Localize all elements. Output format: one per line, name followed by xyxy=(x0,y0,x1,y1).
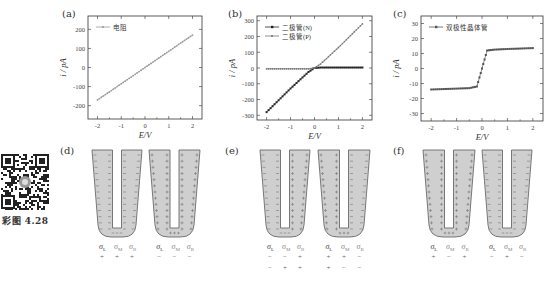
y-tick-label: -20 xyxy=(409,95,418,102)
x-tick-label: -1 xyxy=(454,124,459,131)
charge-sign: + xyxy=(130,253,134,261)
nanochannel-diagram-f-2: σLσMσR−+− xyxy=(482,150,532,261)
charts-layer: 2001000-100-200-2-1012E/Vi / pA电阻3002001… xyxy=(0,0,556,286)
y-tick-label: 100 xyxy=(75,45,85,52)
y-tick-label: 20 xyxy=(412,35,419,42)
legend-label: 二极管(N) xyxy=(282,23,312,32)
x-tick-label: 0 xyxy=(313,123,316,130)
legend-item: 电阻 xyxy=(96,23,127,32)
x-tick-label: 1 xyxy=(167,122,170,129)
nanochannel-diagram-d-2: σLσMσR−−− xyxy=(149,150,200,261)
charge-sign: + xyxy=(100,253,104,261)
y-axis-label: i / pA xyxy=(391,58,401,77)
sigma-label: σR xyxy=(462,242,470,252)
chart-b: 3002001000-100-200-300-2-1012E/Vi / pA二极… xyxy=(227,16,372,141)
series-0 xyxy=(430,47,534,90)
charge-sign: − xyxy=(342,264,346,272)
legend-item: 二极管(P) xyxy=(265,32,311,41)
y-tick-label: -100 xyxy=(73,83,85,90)
sigma-label: σL xyxy=(489,242,496,252)
y-tick-label: -200 xyxy=(242,96,254,103)
sigma-label: σM xyxy=(172,242,181,252)
x-tick-label: 2 xyxy=(191,122,194,129)
y-axis-label: i / pA xyxy=(58,57,68,76)
sigma-label: σM xyxy=(341,242,350,252)
x-axis-label: E/V xyxy=(138,130,154,140)
charge-sign: − xyxy=(358,253,362,261)
sigma-label: σL xyxy=(267,242,274,252)
x-tick-label: 2 xyxy=(531,124,534,131)
charge-sign: − xyxy=(490,253,494,261)
x-tick-label: -2 xyxy=(428,124,433,131)
y-axis-label: i / pA xyxy=(227,58,237,77)
legend-item: 双极性晶体管 xyxy=(429,23,488,32)
charge-sign: + xyxy=(326,264,330,272)
chart-c: 3020100-10-20-30-2-1012E/Vi / pA双极性晶体管 xyxy=(391,16,543,142)
x-tick-label: 1 xyxy=(506,124,509,131)
nanochannel-diagram-f-1: σLσMσR+−+ xyxy=(423,150,475,261)
y-tick-label: -300 xyxy=(242,112,254,119)
x-tick-label: -2 xyxy=(264,123,269,130)
sigma-label: σR xyxy=(187,242,195,252)
charge-sign: + xyxy=(115,253,119,261)
sigma-label: σL xyxy=(430,242,437,252)
charge-sign: − xyxy=(268,253,272,261)
charge-sign: + xyxy=(298,253,302,261)
figure: (a) (b) (c) (d) (e) (f) 2001000-100-200-… xyxy=(0,0,556,286)
series-1 xyxy=(266,23,364,70)
qr-code-image xyxy=(1,153,49,210)
x-tick-label: -1 xyxy=(288,123,293,130)
charge-sign: − xyxy=(358,264,362,272)
nanochannel-diagram-d-1: σLσMσR+++ xyxy=(92,150,142,261)
y-tick-label: 30 xyxy=(412,20,419,27)
figure-caption: 彩图 4.28 xyxy=(2,214,49,227)
sigma-label: σM xyxy=(114,242,123,252)
sigma-label: σR xyxy=(357,242,365,252)
sigma-label: σL xyxy=(99,242,106,252)
charge-sign: + xyxy=(342,253,346,261)
sigma-label: σR xyxy=(297,242,305,252)
y-tick-label: 0 xyxy=(251,65,254,72)
y-tick-label: -100 xyxy=(242,80,254,87)
sigma-label: σL xyxy=(325,242,332,252)
charge-sign: + xyxy=(298,264,302,272)
x-tick-label: 1 xyxy=(337,123,340,130)
charge-sign: − xyxy=(188,253,192,261)
legend-label: 电阻 xyxy=(113,23,127,32)
x-axis-label: E/V xyxy=(307,131,323,141)
y-tick-label: 300 xyxy=(244,17,254,24)
charge-sign: + xyxy=(431,253,435,261)
sigma-label: σM xyxy=(282,242,291,252)
sigma-label: σR xyxy=(519,242,527,252)
y-tick-label: 0 xyxy=(415,65,418,72)
y-tick-label: 200 xyxy=(75,26,85,33)
charge-sign: − xyxy=(283,253,287,261)
x-tick-label: 2 xyxy=(361,123,364,130)
charge-sign: + xyxy=(283,264,287,272)
sigma-label: σM xyxy=(446,242,455,252)
charge-sign: − xyxy=(520,253,524,261)
charge-sign: + xyxy=(505,253,509,261)
charge-sign: − xyxy=(447,253,451,261)
charge-sign: − xyxy=(157,253,161,261)
chart-a: 2001000-100-200-2-1012E/Vi / pA电阻 xyxy=(58,16,202,140)
charge-sign: + xyxy=(463,253,467,261)
y-tick-label: -30 xyxy=(409,110,418,117)
series-0 xyxy=(266,67,364,114)
legend-label: 双极性晶体管 xyxy=(446,23,488,32)
charge-sign: − xyxy=(268,264,272,272)
legend-label: 二极管(P) xyxy=(282,32,311,41)
sigma-label: σL xyxy=(156,242,163,252)
nanochannel-diagram-e-1: σLσMσR−−+−++ xyxy=(260,150,310,272)
y-tick-label: 100 xyxy=(244,49,254,56)
x-tick-label: -1 xyxy=(119,122,124,129)
x-tick-label: 0 xyxy=(480,124,483,131)
y-tick-label: 0 xyxy=(82,64,85,71)
legend-item: 二极管(N) xyxy=(265,23,312,32)
x-tick-label: 0 xyxy=(143,122,146,129)
y-tick-label: 200 xyxy=(244,33,254,40)
y-tick-label: -200 xyxy=(73,102,85,109)
nanochannel-diagram-e-2: σLσMσR++−+−− xyxy=(318,150,370,272)
charge-sign: − xyxy=(173,253,177,261)
y-tick-label: 10 xyxy=(412,50,419,57)
